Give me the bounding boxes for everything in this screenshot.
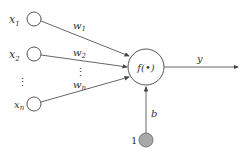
output-label-y: y	[196, 53, 203, 64]
weight-label-w2: w2	[73, 47, 87, 60]
weight-ellipsis: ⋮	[75, 66, 86, 79]
neuron-diagram: x1 w1 x2 w2 ⋮ ⋮ xn wn f(•) y b 1	[0, 0, 249, 161]
input-ellipsis: ⋮	[17, 76, 28, 89]
weight-label-w1: w1	[73, 20, 86, 33]
input-node-xn: xn	[14, 97, 41, 112]
input-label-x2: x2	[9, 48, 20, 63]
input-node-x2: x2	[9, 47, 41, 63]
input-circle-x2	[27, 47, 41, 61]
weight-label-wn: wn	[73, 79, 87, 92]
input-node-x1: x1	[9, 12, 41, 28]
input-label-xn: xn	[14, 99, 25, 112]
input-label-x1: x1	[9, 13, 20, 28]
bias-label-b: b	[151, 108, 157, 119]
input-circle-xn	[27, 97, 41, 111]
bias-input-value: 1	[131, 135, 137, 146]
activation-function-label: f(•)	[136, 62, 155, 73]
bias-node	[139, 133, 153, 147]
input-circle-x1	[27, 12, 41, 26]
